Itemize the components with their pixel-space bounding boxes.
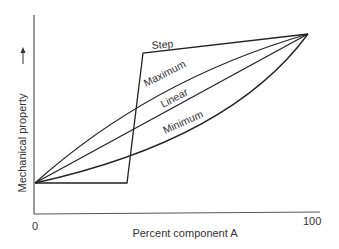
up-arrow-icon: [21, 47, 26, 64]
x-axis: [34, 212, 320, 214]
chart: Mechanical property 0 100 Percent compon…: [0, 0, 339, 249]
y-axis-title: Mechanical property: [16, 93, 28, 193]
series-linear-label: Linear: [158, 85, 190, 110]
series-step-label: Step: [151, 37, 174, 51]
series-linear-line: [35, 34, 308, 183]
x-tick-min: 0: [32, 220, 38, 232]
series-minimum-label: Minimum: [161, 107, 205, 135]
y-axis-title-group: Mechanical property: [16, 47, 28, 193]
x-axis-title: Percent component A: [132, 227, 238, 239]
x-tick-max: 100: [303, 215, 321, 227]
